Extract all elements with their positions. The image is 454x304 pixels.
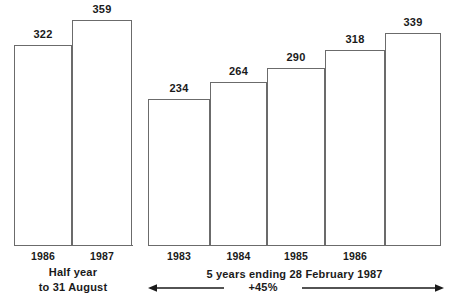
axis-baseline-left bbox=[14, 245, 133, 246]
axis-baseline-right bbox=[148, 245, 441, 246]
bar-value-right-1986: 318 bbox=[325, 33, 385, 45]
tick-label-right-1986: 1986 bbox=[325, 250, 385, 262]
bar-value-left-1986: 322 bbox=[14, 28, 72, 40]
bar-right-1987 bbox=[385, 33, 441, 246]
bar-chart: 322 359 1986 1987 Half year to 31 August… bbox=[0, 0, 454, 304]
bar-value-left-1987: 359 bbox=[72, 3, 132, 15]
tick-label-right-1984: 1984 bbox=[210, 250, 267, 262]
growth-annotation: +45% bbox=[224, 281, 302, 293]
caption-left-line1: Half year bbox=[0, 266, 146, 278]
bar-right-1985 bbox=[267, 68, 325, 246]
bar-right-1984 bbox=[210, 82, 267, 246]
bar-value-right-1987: 339 bbox=[385, 16, 441, 28]
bar-value-right-1984: 264 bbox=[210, 65, 267, 77]
tick-label-right-1983: 1983 bbox=[148, 250, 210, 262]
bar-right-1983 bbox=[148, 99, 210, 246]
bar-value-right-1985: 290 bbox=[267, 51, 325, 63]
tick-label-right-1985: 1985 bbox=[267, 250, 325, 262]
caption-left-line2: to 31 August bbox=[0, 281, 146, 293]
bar-left-1987 bbox=[72, 20, 132, 246]
bar-right-1986 bbox=[325, 50, 385, 246]
bar-left-1986 bbox=[14, 45, 72, 246]
bar-value-right-1983: 234 bbox=[148, 82, 210, 94]
tick-label-left-1987: 1987 bbox=[72, 250, 132, 262]
caption-right-line1: 5 years ending 28 February 1987 bbox=[148, 268, 441, 280]
tick-label-left-1986: 1986 bbox=[14, 250, 72, 262]
